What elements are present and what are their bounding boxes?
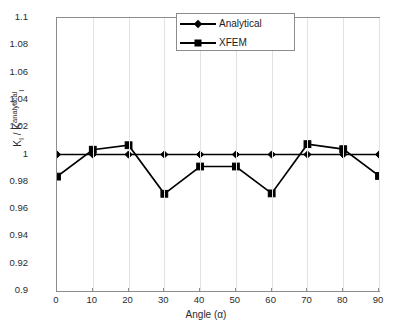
y-tick-label-0.96: 0.96 — [0, 203, 28, 213]
x-tick-mark-10 — [92, 288, 93, 292]
gridline-x-80 — [343, 18, 344, 291]
gridline-x-70 — [307, 18, 308, 291]
x-tick-label-90: 90 — [358, 294, 398, 305]
legend-item-xfem[interactable]: XFEM — [177, 33, 294, 52]
y-tick-label-0.94: 0.94 — [0, 230, 28, 240]
y-axis-label: KI / KanalyticalI — [10, 58, 26, 178]
x-tick-mark-20 — [128, 288, 129, 292]
plot-area — [56, 17, 380, 292]
x-tick-label-60: 60 — [251, 294, 291, 305]
x-axis-label: Angle (α) — [0, 309, 412, 320]
legend-label-xfem: XFEM — [219, 37, 247, 48]
x-tick-label-80: 80 — [322, 294, 362, 305]
y-tick-label-1.1: 1.1 — [0, 12, 28, 22]
x-tick-mark-70 — [306, 288, 307, 292]
x-tick-label-20: 20 — [108, 294, 148, 305]
x-tick-mark-60 — [271, 288, 272, 292]
legend-sample-analytical — [177, 14, 219, 33]
gridline-x-10 — [93, 18, 94, 291]
y-tick-label-0.92: 0.92 — [0, 258, 28, 268]
x-tick-mark-0 — [56, 288, 57, 292]
series-line-xfem — [57, 144, 379, 194]
x-tick-label-0: 0 — [36, 294, 76, 305]
x-tick-mark-40 — [199, 288, 200, 292]
x-tick-mark-30 — [163, 288, 164, 292]
gridline-x-50 — [236, 18, 237, 291]
diamond-marker-icon — [194, 19, 202, 27]
chart-legend[interactable]: Analytical XFEM — [176, 13, 295, 51]
x-tick-label-10: 10 — [72, 294, 112, 305]
x-tick-label-30: 30 — [143, 294, 183, 305]
gridline-x-40 — [200, 18, 201, 291]
x-tick-label-50: 50 — [215, 294, 255, 305]
gridline-x-30 — [164, 18, 165, 291]
y-tick-label-0.9: 0.9 — [0, 285, 28, 295]
gridline-x-60 — [272, 18, 273, 291]
y-label-mid-sup: analytical — [10, 92, 19, 123]
chart-figure: 0.90.920.940.960.9811.021.041.061.081.1 … — [0, 0, 412, 330]
x-tick-mark-80 — [342, 288, 343, 292]
gridline-x-20 — [129, 18, 130, 291]
legend-item-analytical[interactable]: Analytical — [177, 14, 294, 33]
series-canvas — [57, 18, 379, 291]
x-tick-mark-50 — [235, 288, 236, 292]
y-label-mid-sub: I — [17, 90, 26, 92]
y-label-mid: / K — [12, 123, 23, 138]
data-point-analytical-0 — [57, 151, 61, 158]
gridline-x-90 — [379, 18, 380, 291]
x-tick-label-40: 40 — [179, 294, 219, 305]
y-tick-label-1.08: 1.08 — [0, 39, 28, 49]
x-tick-mark-90 — [378, 288, 379, 292]
y-label-lead-sub: I — [17, 138, 26, 140]
x-tick-label-70: 70 — [286, 294, 326, 305]
y-label-lead: K — [12, 140, 23, 147]
legend-sample-xfem — [177, 33, 219, 52]
square-marker-icon — [195, 39, 202, 46]
legend-label-analytical: Analytical — [219, 18, 262, 29]
data-point-xfem-0 — [57, 173, 60, 180]
